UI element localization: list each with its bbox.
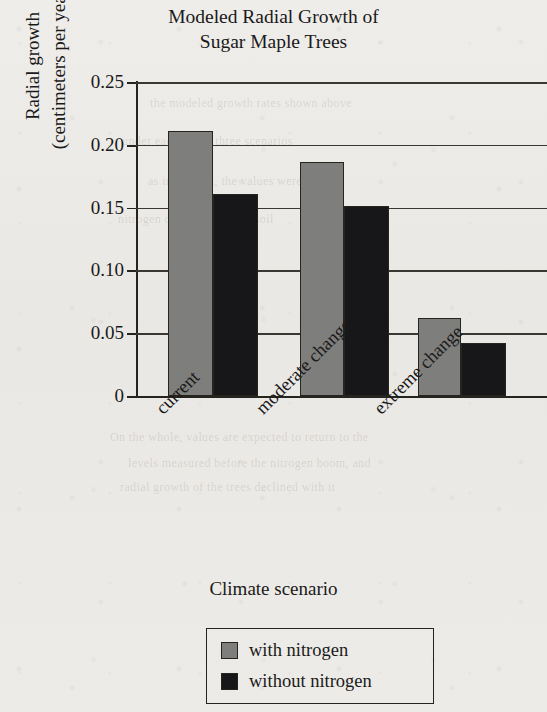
y-axis-title: Radial growth (centimeters per year) — [20, 0, 72, 216]
chart-title-line-2: Sugar Maple Trees — [0, 29, 547, 54]
y-tick-label-0.25: 0.25 — [91, 71, 124, 93]
legend-swatch-icon-without-nitrogen — [221, 673, 238, 690]
bleed-line: radial growth of the trees declined with… — [120, 480, 335, 495]
x-axis-title: Climate scenario — [0, 578, 547, 600]
y-tick-0.10 — [127, 270, 136, 272]
y-tick-0.15 — [127, 208, 136, 210]
y-axis-title-line-2: (centimeters per year) — [46, 0, 72, 216]
legend-item-with-nitrogen[interactable]: with nitrogen — [221, 635, 433, 666]
y-tick-0.25 — [127, 82, 136, 84]
bleed-line: levels measured before the nitrogen boom… — [128, 456, 371, 471]
y-tick-0.05 — [127, 333, 136, 335]
legend-swatch-icon-with-nitrogen — [221, 642, 238, 659]
legend-label-without-nitrogen: without nitrogen — [249, 672, 372, 691]
y-tick-label-0.05: 0.05 — [91, 322, 124, 344]
x-axis-line — [136, 396, 547, 398]
plot-area: 0.25 0.20 0.15 0.10 0.05 0 — [136, 82, 547, 396]
bar-current-with-nitrogen[interactable] — [168, 131, 213, 396]
bar-moderate-change-without-nitrogen[interactable] — [344, 206, 389, 396]
y-tick-label-0.20: 0.20 — [91, 134, 124, 156]
y-tick-label-0.15: 0.15 — [91, 197, 124, 219]
y-tick-label-0.10: 0.10 — [91, 259, 124, 281]
y-tick-label-0: 0 — [115, 385, 125, 407]
y-axis-title-line-1: Radial growth — [20, 0, 46, 216]
y-tick-0 — [127, 396, 136, 398]
legend-label-with-nitrogen: with nitrogen — [249, 641, 348, 660]
gridline-0.25 — [136, 82, 547, 84]
chart-title: Modeled Radial Growth of Sugar Maple Tre… — [0, 4, 547, 54]
chart-legend: with nitrogen without nitrogen — [206, 628, 434, 704]
bar-current-without-nitrogen[interactable] — [213, 194, 258, 396]
bar-chart: the modeled growth rates shown above und… — [0, 0, 547, 712]
bleed-line: On the whole, values are expected to ret… — [110, 430, 369, 445]
legend-item-without-nitrogen[interactable]: without nitrogen — [221, 666, 433, 697]
bar-extreme-change-without-nitrogen[interactable] — [461, 343, 506, 396]
y-axis-line — [136, 81, 138, 397]
y-tick-0.20 — [127, 145, 136, 147]
chart-title-line-1: Modeled Radial Growth of — [0, 4, 547, 29]
